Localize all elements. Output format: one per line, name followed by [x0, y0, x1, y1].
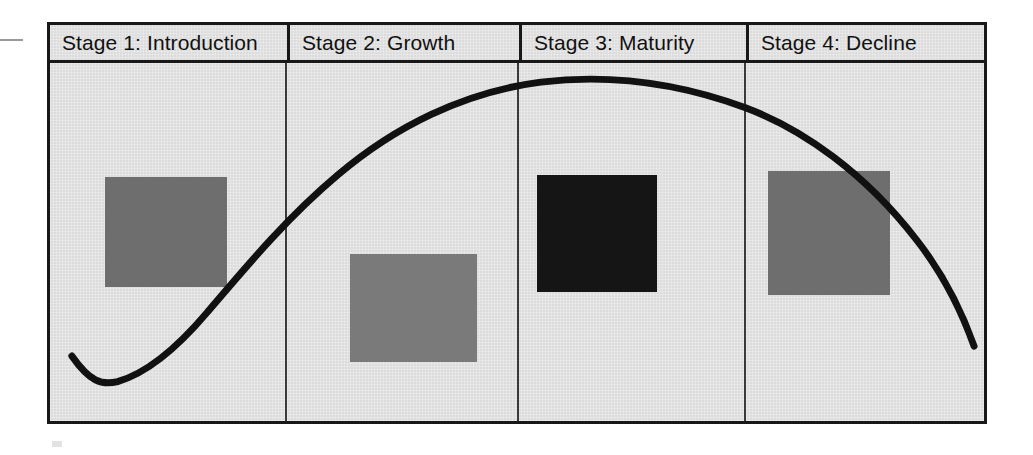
stage-label-maturity: Stage 3: Maturity — [534, 31, 694, 55]
product-block-introduction — [105, 177, 227, 287]
stage-header-cell-decline: Stage 4: Decline — [746, 25, 984, 60]
stage-divider-1 — [285, 63, 287, 421]
product-life-cycle-diagram: Stage 1: Introduction Stage 2: Growth St… — [47, 22, 987, 424]
stage-header-cell-introduction: Stage 1: Introduction — [50, 25, 287, 60]
stage-header-cell-growth: Stage 2: Growth — [287, 25, 519, 60]
stage-header-cell-maturity: Stage 3: Maturity — [519, 25, 746, 60]
scan-artifact-mark-bottom — [52, 441, 62, 447]
stage-label-decline: Stage 4: Decline — [761, 31, 917, 55]
scan-artifact-line-left — [0, 39, 23, 41]
product-block-growth — [350, 254, 477, 362]
stage-divider-3 — [744, 63, 746, 421]
stage-label-introduction: Stage 1: Introduction — [62, 31, 258, 55]
stage-divider-2 — [517, 63, 519, 421]
stage-label-growth: Stage 2: Growth — [302, 31, 455, 55]
stage-header-row: Stage 1: Introduction Stage 2: Growth St… — [50, 25, 984, 63]
product-block-maturity — [537, 175, 657, 292]
product-block-decline — [768, 171, 890, 295]
